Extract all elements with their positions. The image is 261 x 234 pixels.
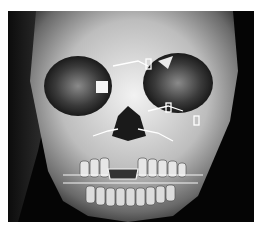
right-orbit (143, 53, 213, 113)
skull-illustration (8, 11, 254, 222)
lower-teeth (86, 185, 175, 206)
orbit-artifact (96, 81, 108, 93)
ct-skull-render (8, 11, 254, 222)
